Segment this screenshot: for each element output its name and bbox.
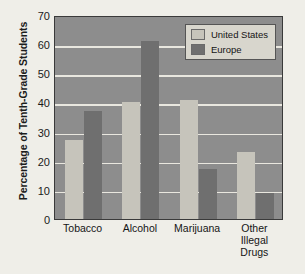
legend[interactable]: United States Europe (185, 24, 276, 60)
legend-swatch-europe (191, 44, 205, 55)
y-tick-label: 50 (24, 69, 50, 80)
x-tick-label: Other Illegal Drugs (240, 222, 269, 258)
y-tick-label: 0 (24, 215, 50, 226)
x-tick-label: Alcohol (123, 222, 157, 234)
legend-item-europe[interactable]: Europe (191, 44, 268, 55)
bar (122, 102, 140, 219)
y-tick-label: 70 (24, 11, 50, 22)
x-tick-label: Marijuana (174, 222, 220, 234)
legend-label-europe: Europe (211, 45, 242, 55)
legend-label-united-states: United States (211, 30, 268, 40)
y-tick-label: 20 (24, 156, 50, 167)
y-tick-label: 40 (24, 98, 50, 109)
bar (199, 169, 217, 219)
y-tick-label: 60 (24, 40, 50, 51)
legend-swatch-united-states (191, 29, 205, 40)
bar (65, 140, 83, 219)
y-axis-tick-labels: 010203040506070 (24, 16, 50, 220)
y-tick-label: 10 (24, 185, 50, 196)
bar (180, 100, 198, 219)
plot-area: United States Europe (54, 16, 283, 220)
x-tick-label: Tobacco (63, 222, 102, 234)
bar (237, 152, 255, 219)
y-tick-label: 30 (24, 127, 50, 138)
chart-figure: Percentage of Tenth-Grade Students 01020… (0, 0, 305, 274)
bar (84, 111, 102, 219)
x-axis-tick-labels: TobaccoAlcoholMarijuanaOther Illegal Dru… (54, 222, 283, 262)
legend-item-united-states[interactable]: United States (191, 29, 268, 40)
bar (141, 41, 159, 219)
bar (256, 193, 274, 219)
